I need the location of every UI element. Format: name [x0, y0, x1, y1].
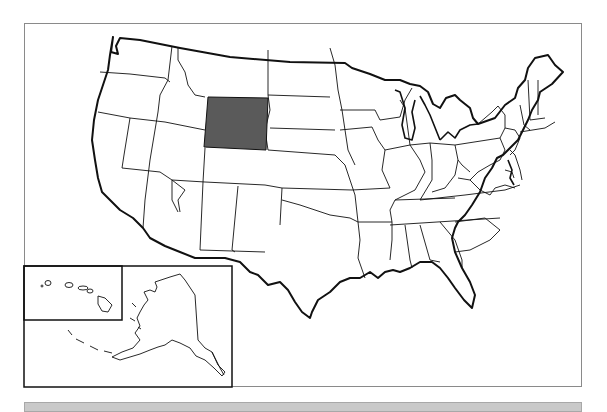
state-wyoming[interactable] — [204, 97, 268, 150]
inset-frame — [24, 266, 232, 387]
footer-bar — [24, 402, 582, 412]
